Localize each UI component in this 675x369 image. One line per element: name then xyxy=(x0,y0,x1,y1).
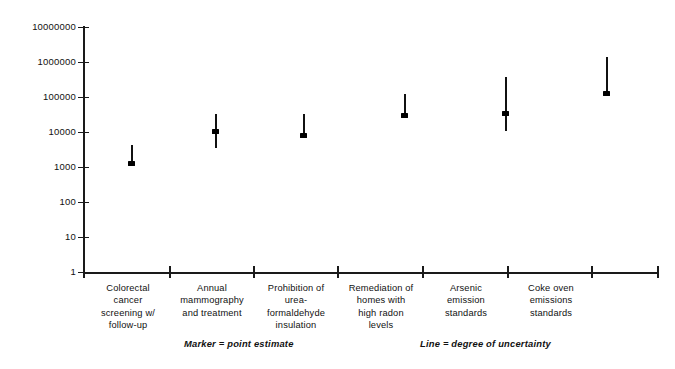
y-tick-1000000 xyxy=(78,62,89,64)
point-estimate-marker xyxy=(401,113,408,118)
x-category-label-3: Remediation of homes with high radon lev… xyxy=(339,282,423,332)
y-tick-label-100: 100 xyxy=(2,197,76,207)
x-tick-4 xyxy=(422,266,424,278)
label-line: high radon xyxy=(339,307,423,319)
label-line: emissions xyxy=(509,294,593,306)
y-tick-label-1000: 1000 xyxy=(2,162,76,172)
x-tick-2 xyxy=(253,266,255,278)
label-line: emission xyxy=(424,294,508,306)
label-line: mammography xyxy=(171,294,253,306)
label-line: Colorectal xyxy=(88,282,168,294)
y-tick-label-100000: 100000 xyxy=(2,92,76,102)
legend-note-marker: Marker = point estimate xyxy=(184,338,294,349)
label-line: urea- xyxy=(254,294,338,306)
x-tick-6 xyxy=(591,266,593,278)
x-category-label-1: Annual mammography and treatment xyxy=(171,282,253,319)
label-line: formaldehyde xyxy=(254,307,338,319)
x-tick-0 xyxy=(83,266,85,278)
label-line: homes with xyxy=(339,294,423,306)
label-line: standards xyxy=(424,307,508,319)
label-line: Arsenic xyxy=(424,282,508,294)
x-tick-1 xyxy=(169,266,171,278)
x-category-label-4: Arsenic emission standards xyxy=(424,282,508,319)
uncertainty-line xyxy=(505,77,507,131)
label-line: Prohibition of xyxy=(254,282,338,294)
label-line: Annual xyxy=(171,282,253,294)
y-tick-100000 xyxy=(78,97,89,99)
x-tick-7 xyxy=(657,266,659,278)
y-tick-1000 xyxy=(78,167,89,169)
y-tick-label-10000000: 10000000 xyxy=(2,22,76,32)
label-line: cancer xyxy=(88,294,168,306)
label-line: standards xyxy=(509,307,593,319)
x-category-label-2: Prohibition of urea- formaldehyde insula… xyxy=(254,282,338,332)
label-line: Remediation of xyxy=(339,282,423,294)
y-tick-label-10: 10 xyxy=(2,232,76,242)
point-estimate-marker xyxy=(128,161,135,166)
label-line: screening w/ xyxy=(88,307,168,319)
point-estimate-marker xyxy=(212,129,219,134)
x-category-label-0: Colorectal cancer screening w/ follow-up xyxy=(88,282,168,332)
cost-effectiveness-chart: 10000000 1000000 100000 10000 1000 100 1… xyxy=(0,0,675,369)
y-tick-100 xyxy=(78,202,89,204)
point-estimate-marker xyxy=(502,111,509,116)
y-tick-10000000 xyxy=(78,27,89,29)
label-line: Coke oven xyxy=(509,282,593,294)
uncertainty-line xyxy=(606,57,608,95)
x-tick-5 xyxy=(507,266,509,278)
point-estimate-marker xyxy=(603,91,610,96)
x-category-label-5: Coke oven emissions standards xyxy=(509,282,593,319)
x-tick-3 xyxy=(337,266,339,278)
label-line: levels xyxy=(339,319,423,331)
legend-note-line: Line = degree of uncertainty xyxy=(420,338,551,349)
label-line: follow-up xyxy=(88,319,168,331)
point-estimate-marker xyxy=(300,133,307,138)
y-tick-label-10000: 10000 xyxy=(2,127,76,137)
label-line: and treatment xyxy=(171,307,253,319)
y-tick-10 xyxy=(78,237,89,239)
y-tick-label-1000000: 1000000 xyxy=(2,57,76,67)
y-tick-10000 xyxy=(78,132,89,134)
y-tick-label-1: 1 xyxy=(2,267,76,277)
label-line: insulation xyxy=(254,319,338,331)
